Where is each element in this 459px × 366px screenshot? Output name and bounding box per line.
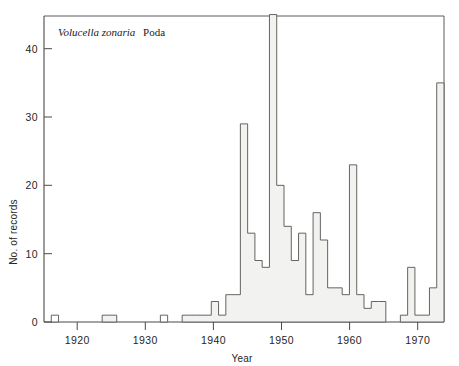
x-axis-ticks: 1920 1930 1940 1950 1960 1970 — [65, 322, 430, 346]
x-tick-label-1960: 1960 — [337, 334, 362, 346]
caption-author: Poda — [143, 26, 165, 38]
x-axis-title: Year — [231, 353, 252, 364]
histogram-bin-group — [51, 315, 58, 322]
histogram-bin-group — [160, 315, 167, 322]
y-axis-ticks: 0 10 20 30 40 — [26, 43, 52, 328]
y-tick-label-10: 10 — [26, 248, 38, 260]
histogram-bin-group — [102, 315, 117, 322]
x-tick-label-1970: 1970 — [405, 334, 430, 346]
y-axis-title: No. of records — [8, 199, 19, 265]
caption-species-name: Volucella zonaria — [58, 26, 136, 38]
histogram-series — [51, 15, 444, 322]
y-tick-label-0: 0 — [32, 316, 38, 328]
chart-caption: Volucella zonaria Poda — [58, 26, 165, 38]
histogram-bin-group — [400, 83, 444, 322]
y-tick-label-30: 30 — [26, 111, 38, 123]
x-tick-label-1950: 1950 — [269, 334, 294, 346]
y-tick-label-40: 40 — [26, 43, 38, 55]
figure-container: 0 10 20 30 40 1920 1930 1940 1950 1960 1… — [0, 0, 459, 366]
x-tick-label-1930: 1930 — [133, 334, 158, 346]
x-tick-label-1920: 1920 — [65, 334, 90, 346]
y-tick-label-20: 20 — [26, 179, 38, 191]
x-tick-label-1940: 1940 — [201, 334, 226, 346]
histogram-chart: 0 10 20 30 40 1920 1930 1940 1950 1960 1… — [0, 0, 459, 366]
histogram-bin-group — [182, 15, 386, 322]
